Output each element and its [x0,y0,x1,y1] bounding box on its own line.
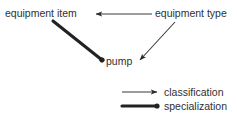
diagram-canvas: equipment item equipment type pump class… [0,0,237,121]
legend-label-classification: classification [164,86,224,98]
legend-label-specialization: specialization [164,100,227,112]
node-label-equipment-item: equipment item [5,7,77,19]
edge-specialization-item-to-pump [53,21,102,60]
node-label-equipment-type: equipment type [155,7,227,19]
node-label-pump: pump [106,55,132,67]
edge-classification-type-to-pump [140,22,175,60]
